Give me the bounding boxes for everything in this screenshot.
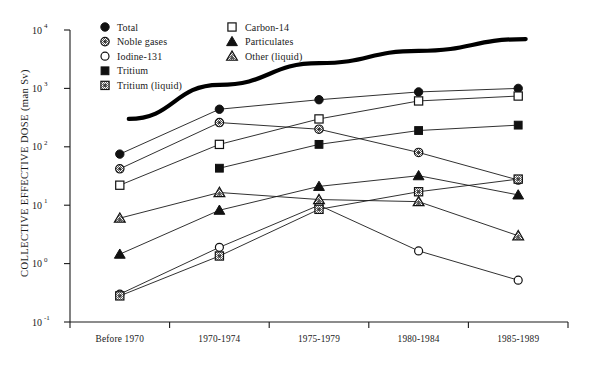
x-tick-label: Before 1970 bbox=[96, 334, 145, 344]
legend-marker-shaded-circle bbox=[101, 37, 109, 45]
legend-marker-filled-circle bbox=[101, 23, 109, 31]
legend-label: Total bbox=[117, 22, 138, 33]
data-point-noble-gases bbox=[215, 118, 223, 126]
y-tick-label: 10 bbox=[32, 141, 42, 152]
data-point-tritium-liquid bbox=[116, 292, 124, 300]
data-point-tritium-liquid bbox=[415, 188, 423, 196]
legend-label: Tritium bbox=[117, 65, 148, 76]
data-point-tritium bbox=[216, 164, 224, 172]
y-tick-label: 10 bbox=[32, 25, 42, 36]
legend-marker-hatched-square bbox=[101, 81, 109, 89]
legend-marker-filled-square bbox=[101, 67, 109, 75]
y-tick-exponent: -1 bbox=[44, 314, 50, 322]
data-point-tritium-liquid bbox=[514, 175, 522, 183]
x-tick-label: 1980-1984 bbox=[398, 334, 440, 344]
data-point-carbon-14 bbox=[315, 115, 323, 123]
data-point-total bbox=[215, 105, 223, 113]
data-point-carbon-14 bbox=[514, 92, 522, 100]
y-tick-label: 10 bbox=[32, 317, 42, 328]
x-tick-label: 1970-1974 bbox=[198, 334, 240, 344]
x-tick-label: 1975-1979 bbox=[298, 334, 340, 344]
data-point-total bbox=[414, 88, 422, 96]
y-tick-label: 10 bbox=[32, 200, 42, 211]
y-tick-exponent: 0 bbox=[44, 256, 48, 264]
legend-item-total: Total bbox=[101, 22, 138, 33]
data-point-tritium-liquid bbox=[215, 252, 223, 260]
data-point-carbon-14 bbox=[116, 181, 124, 189]
legend-label: Carbon-14 bbox=[245, 22, 289, 33]
data-point-iodine-131 bbox=[215, 243, 223, 251]
y-tick-exponent: 3 bbox=[44, 80, 48, 88]
data-point-noble-gases bbox=[315, 125, 323, 133]
data-point-tritium-liquid bbox=[315, 205, 323, 213]
data-point-noble-gases bbox=[116, 165, 124, 173]
legend-label: Tritium (liquid) bbox=[117, 80, 182, 92]
y-tick-exponent: 2 bbox=[44, 139, 48, 147]
legend-label: Other (liquid) bbox=[245, 51, 302, 63]
legend-label: Particulates bbox=[245, 36, 293, 47]
legend-label: Iodine-131 bbox=[117, 51, 162, 62]
data-point-iodine-131 bbox=[514, 276, 522, 284]
legend-marker-open-circle bbox=[101, 52, 109, 60]
y-tick-label: 10 bbox=[32, 83, 42, 94]
data-point-tritium bbox=[315, 140, 323, 148]
legend-marker-open-square bbox=[228, 23, 236, 31]
y-axis-label: COLLECTIVE EFFECTIVE DOSE (man Sv) bbox=[19, 69, 31, 277]
chart-figure: 10410310210110010-1 Before 19701970-1974… bbox=[0, 0, 591, 373]
y-tick-exponent: 4 bbox=[44, 22, 48, 30]
data-point-carbon-14 bbox=[215, 140, 223, 148]
data-point-tritium bbox=[415, 127, 423, 135]
y-tick-label: 10 bbox=[32, 258, 42, 269]
x-tick-label: 1985-1989 bbox=[497, 334, 539, 344]
data-point-tritium bbox=[514, 121, 522, 129]
data-point-total bbox=[116, 150, 124, 158]
data-point-iodine-131 bbox=[415, 247, 423, 255]
data-point-noble-gases bbox=[414, 148, 422, 156]
data-point-total bbox=[315, 96, 323, 104]
data-point-carbon-14 bbox=[415, 97, 423, 105]
legend-item-tritium: Tritium bbox=[101, 65, 148, 76]
legend-label: Noble gases bbox=[117, 36, 167, 47]
y-tick-exponent: 1 bbox=[44, 197, 48, 205]
collective-effective-dose-chart: 10410310210110010-1 Before 19701970-1974… bbox=[0, 0, 591, 373]
